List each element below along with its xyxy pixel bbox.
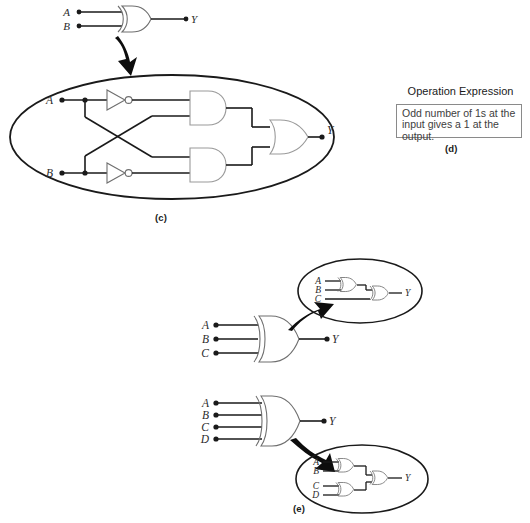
panel-e3-output-y-label: Y — [332, 333, 340, 345]
panel-label-d: (d) — [445, 143, 458, 154]
panel-c-top-xor-gate: A B Y — [62, 6, 199, 32]
panel-c-expansion-circuit: A B Y — [45, 90, 335, 183]
panel-e-three-input-arrow — [288, 302, 334, 331]
operation-expression-heading: Operation Expression — [398, 85, 523, 97]
panel-e4-input-c-label: C — [201, 421, 209, 433]
panel-c-exp-input-b-label: B — [46, 167, 53, 179]
panel-e4-exp-input-d-label: D — [311, 490, 319, 500]
panel-e3-exp-input-c-label: C — [315, 294, 322, 304]
operation-expression-text: Odd number of 1s at the input gives a 1 … — [402, 108, 516, 142]
panel-e4-exp-output-y-label: Y — [405, 473, 412, 483]
panel-c-output-y-label: Y — [191, 13, 199, 25]
panel-e4-input-a-label: A — [201, 397, 210, 409]
panel-e-three-input-gate: A B C Y — [201, 316, 340, 362]
panel-e-four-input-gate: A B C D Y — [200, 396, 337, 446]
panel-e3-exp-output-y-label: Y — [405, 288, 412, 298]
panel-e4-input-b-label: B — [202, 409, 209, 421]
panel-label-c: (c) — [155, 212, 167, 223]
panel-c-expansion-arrow — [115, 36, 137, 76]
panel-e4-output-y-label: Y — [329, 415, 337, 427]
panel-label-e: (e) — [293, 503, 305, 514]
panel-e4-exp-input-b-label: B — [313, 466, 319, 476]
panel-c-input-b-label: B — [63, 20, 70, 32]
panel-e4-input-d-label: D — [200, 433, 210, 445]
panel-c-input-a-label: A — [62, 6, 70, 18]
figure-canvas: A B Y — [0, 0, 530, 523]
operation-expression-box: Odd number of 1s at the input gives a 1 … — [396, 104, 522, 138]
logic-diagram: A B Y — [0, 0, 530, 523]
panel-e3-input-b-label: B — [202, 333, 209, 345]
panel-c-exp-input-a-label: A — [45, 94, 54, 106]
panel-e-three-input-expansion: A B C Y — [314, 276, 412, 304]
panel-e3-input-a-label: A — [201, 319, 210, 331]
panel-e3-input-c-label: C — [201, 347, 209, 359]
